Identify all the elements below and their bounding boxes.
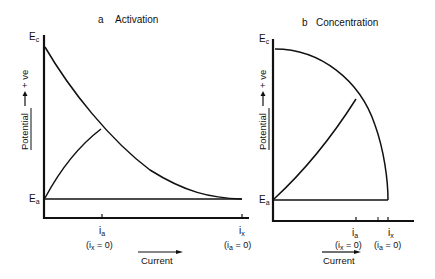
tick-ix-label-b: ix	[388, 227, 394, 239]
tick-ia-label-b: ia	[352, 227, 358, 239]
y-axis-label-a: Potential + ve	[19, 70, 31, 150]
x-axis-label-a: Current	[141, 255, 173, 266]
svg-text:Potential: Potential	[19, 113, 30, 150]
y-axis-label-b: Potential + ve	[257, 70, 269, 150]
panel-b-title: Concentration	[316, 17, 378, 28]
panel-a-letter: a	[98, 14, 104, 25]
anodic-curve-a	[45, 129, 101, 198]
panel-b-letter: b	[302, 17, 308, 28]
anodic-curve-b	[274, 99, 356, 199]
ec-label-b: Ec	[259, 33, 270, 45]
ea-label-b: Ea	[259, 194, 270, 206]
tick-ix-label-a: ix	[239, 225, 245, 237]
cathodic-curve-a	[45, 47, 242, 199]
x-axis-label-b: Current	[323, 255, 355, 266]
ea-label-a: Ea	[29, 193, 40, 205]
tick-ia-label-a: ia	[99, 225, 105, 237]
cathodic-curve-b	[275, 49, 388, 200]
svg-text:+ ve: + ve	[19, 70, 30, 88]
tick-ix-note-a: (ia = 0)	[224, 240, 251, 251]
tick-ix-note-b: (ia = 0)	[374, 240, 401, 251]
tick-ia-note-b: (ix = 0)	[335, 240, 362, 251]
panel-concentration: b Concentration Ec Ea Potential + ve ia …	[257, 17, 414, 266]
tick-ia-note-a: (ix = 0)	[86, 240, 113, 251]
panel-activation: a Activation Ec Ea Potential + ve ia (ix…	[19, 14, 251, 266]
svg-text:+ ve: + ve	[257, 70, 268, 88]
polarization-diagram: a Activation Ec Ea Potential + ve ia (ix…	[0, 0, 435, 279]
ec-label-a: Ec	[29, 31, 40, 43]
svg-text:Potential: Potential	[257, 113, 268, 150]
panel-a-title: Activation	[115, 14, 158, 25]
